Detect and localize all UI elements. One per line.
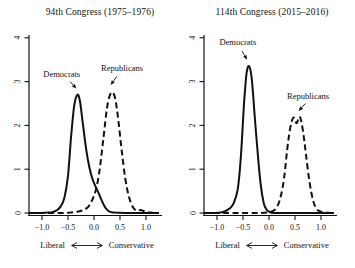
y-tick-label: 4 (189, 36, 198, 40)
democrats-curve (204, 66, 334, 213)
x-tick-label: 1.0 (141, 223, 151, 232)
x-tick-label: −1.0 (35, 223, 50, 232)
y-tick-label: 3 (189, 80, 198, 84)
republicans-curve (29, 92, 159, 213)
y-tick-label: 0 (189, 211, 198, 215)
republicans-curve (204, 116, 334, 213)
annotation-label-republicans: Republicans (287, 91, 329, 101)
annotation-arrowhead (111, 80, 115, 85)
x-tick-label: 0.5 (290, 223, 300, 232)
annotation-label-republicans: Republicans (101, 63, 143, 73)
x-tick-label: 1.0 (316, 223, 326, 232)
annotation-label-democrats: Democrats (219, 37, 256, 47)
x-tick-label: −0.5 (61, 223, 76, 232)
plots-canvas: 01234−1.0−0.50.00.51.0DemocratsRepublica… (0, 0, 355, 268)
double-arrow-icon (244, 241, 280, 250)
y-tick-label: 1 (189, 167, 198, 171)
annotation-arrow (302, 104, 306, 108)
y-tick-label: 2 (14, 123, 23, 127)
x-tick-label: −0.5 (236, 223, 251, 232)
x-axis-label-94th: Liberal Conservative (24, 240, 170, 250)
y-tick-label: 4 (14, 36, 23, 40)
panel-plot-0: 01234−1.0−0.50.00.51.0DemocratsRepublica… (14, 35, 163, 232)
x-tick-label: 0.0 (89, 223, 99, 232)
annotation-arrow (242, 51, 245, 56)
annotation-arrow (113, 76, 117, 81)
liberal-label: Liberal (215, 240, 240, 250)
liberal-label: Liberal (40, 240, 65, 250)
democrats-curve (29, 95, 159, 213)
x-tick-label: 0.5 (115, 223, 125, 232)
y-tick-label: 0 (14, 211, 23, 215)
y-tick-label: 3 (14, 80, 23, 84)
y-tick-label: 2 (189, 123, 198, 127)
double-arrow-icon (69, 241, 105, 250)
conservative-label: Conservative (109, 240, 154, 250)
x-tick-label: −1.0 (210, 223, 225, 232)
annotation-arrow (70, 82, 73, 86)
x-axis-label-114th: Liberal Conservative (199, 240, 345, 250)
panel-plot-1: 01234−1.0−0.50.00.51.0DemocratsRepublica… (189, 35, 338, 232)
y-tick-label: 1 (14, 167, 23, 171)
annotation-label-democrats: Democrats (43, 69, 80, 79)
conservative-label: Conservative (284, 240, 329, 250)
congress-ideology-figure: 94th Congress (1975–1976) 114th Congress… (0, 0, 355, 268)
x-tick-label: 0.0 (264, 223, 274, 232)
